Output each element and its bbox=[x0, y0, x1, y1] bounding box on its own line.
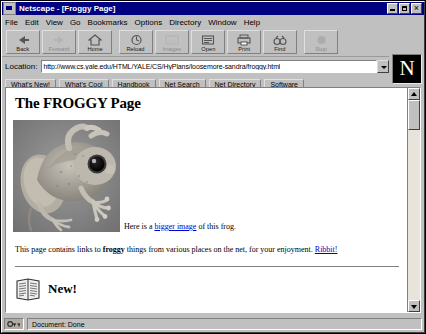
reload-icon bbox=[130, 33, 143, 46]
print-button[interactable]: Print bbox=[227, 30, 261, 54]
netscape-logo[interactable]: N bbox=[392, 54, 422, 84]
page-title: The FROGGY Page bbox=[15, 95, 401, 112]
open-button-label: Open bbox=[201, 46, 215, 53]
home-icon bbox=[88, 33, 102, 46]
paragraph-part1: This page contains links to bbox=[15, 245, 103, 254]
image-caption: Here is a bigger image of this frog. bbox=[124, 222, 236, 231]
netscape-browser-window: Netscape - [Froggy Page] File Edit View … bbox=[0, 0, 426, 334]
netscape-logo-letter: N bbox=[399, 58, 414, 79]
menu-item-go[interactable]: Go bbox=[70, 18, 85, 27]
menu-item-directory[interactable]: Directory bbox=[169, 18, 205, 27]
intro-paragraph: This page contains links to froggy thing… bbox=[15, 245, 401, 254]
reload-button-label: Reload bbox=[127, 46, 145, 53]
print-icon bbox=[237, 33, 251, 46]
netscape-logo-cell: N bbox=[389, 53, 425, 85]
status-bar: Document: Done bbox=[4, 317, 422, 331]
newspaper-icon bbox=[15, 277, 41, 301]
menu-item-file[interactable]: File bbox=[5, 18, 22, 27]
frog-image-row: Here is a bigger image of this frog. bbox=[13, 120, 401, 232]
menu-item-window[interactable]: Window bbox=[208, 18, 240, 27]
new-section: New! bbox=[15, 277, 401, 301]
status-message-box: Document: Done bbox=[27, 318, 422, 330]
horizontal-rule bbox=[15, 266, 399, 270]
menu-item-help[interactable]: Help bbox=[244, 18, 264, 27]
vertical-scrollbar[interactable] bbox=[407, 88, 420, 312]
paragraph-bold-froggy: froggy bbox=[103, 245, 125, 254]
back-button-label: Back bbox=[17, 46, 30, 53]
home-button-label: Home bbox=[87, 46, 102, 53]
find-button[interactable]: Find bbox=[263, 30, 297, 54]
images-button[interactable]: Images bbox=[155, 30, 189, 54]
title-bar: Netscape - [Froggy Page] bbox=[2, 2, 424, 15]
scroll-up-arrow-icon[interactable] bbox=[408, 88, 420, 100]
menu-item-edit[interactable]: Edit bbox=[25, 18, 43, 27]
images-icon bbox=[165, 33, 179, 46]
maximize-button[interactable] bbox=[399, 3, 410, 14]
location-label: Location: bbox=[5, 62, 37, 71]
find-binoculars-icon bbox=[273, 33, 287, 46]
bigger-image-link[interactable]: bigger image bbox=[154, 222, 196, 231]
stop-button-label: Stop bbox=[315, 46, 327, 53]
netscape-window-icon bbox=[3, 2, 16, 15]
frog-photo[interactable] bbox=[13, 120, 120, 232]
print-button-label: Print bbox=[238, 46, 250, 53]
location-dropdown-button[interactable] bbox=[377, 60, 389, 73]
forward-arrow-icon bbox=[52, 33, 67, 46]
back-arrow-icon bbox=[16, 33, 31, 46]
content-area: The FROGGY Page bbox=[5, 87, 421, 313]
new-label: New! bbox=[48, 281, 77, 297]
web-page-document: The FROGGY Page bbox=[6, 88, 407, 312]
broken-key-icon[interactable] bbox=[4, 318, 24, 330]
open-icon bbox=[201, 33, 215, 46]
scroll-down-arrow-icon[interactable] bbox=[408, 300, 420, 312]
status-message: Document: Done bbox=[32, 321, 85, 328]
images-button-label: Images bbox=[163, 46, 182, 53]
stop-icon bbox=[315, 33, 328, 46]
location-bar: Location: http://www.cs.yale.edu/HTML/YA… bbox=[1, 57, 425, 76]
menu-item-bookmarks[interactable]: Bookmarks bbox=[88, 18, 132, 27]
forward-button[interactable]: Forward bbox=[42, 30, 76, 54]
scrollbar-track[interactable] bbox=[408, 100, 420, 300]
window-controls bbox=[387, 3, 423, 14]
navigation-toolbar: Back Forward Home Reload Images bbox=[1, 28, 425, 57]
menu-item-options[interactable]: Options bbox=[135, 18, 167, 27]
window-title: Netscape - [Froggy Page] bbox=[19, 4, 387, 13]
location-url-text: http://www.cs.yale.edu/HTML/YALE/CS/HyPl… bbox=[43, 63, 280, 70]
caption-prefix: Here is a bbox=[124, 222, 154, 231]
menu-bar: File Edit View Go Bookmarks Options Dire… bbox=[1, 15, 425, 28]
caption-suffix: of this frog. bbox=[196, 222, 236, 231]
menu-item-view[interactable]: View bbox=[46, 18, 67, 27]
find-button-label: Find bbox=[274, 46, 285, 53]
minimize-button[interactable] bbox=[387, 3, 398, 14]
ribbit-link[interactable]: Ribbit! bbox=[315, 245, 338, 254]
location-input[interactable]: http://www.cs.yale.edu/HTML/YALE/CS/HyPl… bbox=[41, 60, 377, 73]
close-button[interactable] bbox=[411, 3, 422, 14]
reload-button[interactable]: Reload bbox=[119, 30, 153, 54]
paragraph-part2: things from various places on the net, f… bbox=[125, 245, 315, 254]
forward-button-label: Forward bbox=[49, 46, 70, 53]
scrollbar-thumb[interactable] bbox=[408, 100, 420, 130]
home-button[interactable]: Home bbox=[78, 30, 112, 54]
back-button[interactable]: Back bbox=[6, 30, 40, 54]
stop-button[interactable]: Stop bbox=[304, 30, 338, 54]
open-button[interactable]: Open bbox=[191, 30, 225, 54]
